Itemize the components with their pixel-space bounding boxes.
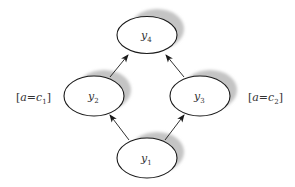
edge-y3-y4 [166, 55, 184, 77]
condition-label-left: [a=c1] [16, 91, 51, 106]
node-y1[interactable]: y1 [117, 138, 177, 178]
diagram-canvas: y4 y2 y3 y1 [a=c1] [a=c2] [0, 0, 295, 187]
edge-y1-y3 [165, 115, 184, 140]
edge-y1-y2 [110, 115, 129, 140]
node-y4[interactable]: y4 [117, 17, 177, 54]
condition-label-right: [a=c2] [248, 91, 283, 106]
node-y2[interactable]: y2 [64, 76, 124, 116]
node-y3[interactable]: y3 [170, 76, 230, 116]
